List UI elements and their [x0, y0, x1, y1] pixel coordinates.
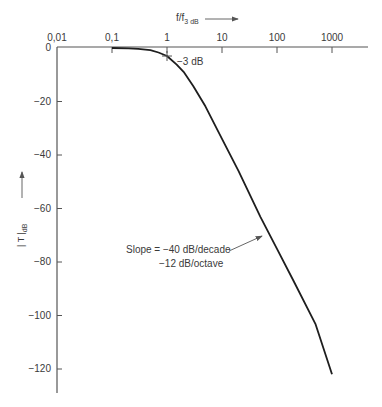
magnitude-curve: [112, 48, 332, 374]
y-tick-label: −60: [34, 204, 51, 214]
x-tick-label: 10: [216, 33, 227, 43]
slope-label-line2: −12 dB/octave: [159, 259, 223, 269]
y-tick-label: −80: [34, 257, 51, 267]
x-tick-label: 1: [164, 33, 170, 43]
minus-3db-label: −3 dB: [177, 57, 203, 67]
slope-label-line1: Slope = −40 dB/decade: [126, 245, 231, 255]
y-tick-label: 0: [45, 43, 51, 53]
y-axis-label-main: | T |: [16, 232, 26, 247]
x-axis-label: f/f3 dB: [176, 13, 199, 25]
y-tick-label: −40: [34, 150, 51, 160]
x-axis-label-sub: 3 dB: [184, 18, 198, 25]
y-tick-label: −100: [28, 311, 51, 321]
y-tick-label: −20: [34, 97, 51, 107]
bode-magnitude-chart: f/f3 dB | T |dB −3 dB Slope = −40 dB/dec…: [0, 0, 382, 407]
x-tick-label: 0,1: [105, 33, 119, 43]
x-tick-label: 1000: [321, 33, 343, 43]
y-axis-label: | T |dB: [17, 224, 28, 247]
x-tick-label: 100: [269, 33, 286, 43]
y-tick-label: −120: [28, 364, 51, 374]
slope-arrow: [229, 236, 262, 251]
y-axis-label-sub: dB: [21, 224, 28, 233]
